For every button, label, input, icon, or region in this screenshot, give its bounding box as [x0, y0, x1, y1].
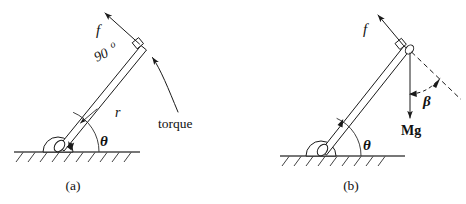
panel-b-diagram: f Mg β θ (b) [233, 0, 466, 204]
right-angle-label-a: 90 [92, 45, 111, 65]
panel-caption-b: (b) [343, 178, 359, 193]
right-angle-label-group-a: 90 o [90, 38, 120, 65]
torque-curved-arrow-a [153, 58, 179, 113]
torque-label-a: torque [158, 116, 193, 131]
beta-arrowhead-right-b [433, 78, 441, 89]
radius-label-a: r [115, 105, 121, 120]
ground-surface-b [280, 156, 405, 166]
degree-symbol-a: o [108, 38, 117, 50]
ground-hatching-b [282, 157, 385, 167]
weight-label-b: Mg [401, 123, 421, 138]
theta-label-b: θ [363, 137, 371, 153]
beta-label-b: β [422, 93, 431, 109]
force-label-b: f [363, 21, 369, 37]
ground-hatching-a [16, 153, 131, 163]
panel-caption-a: (a) [66, 178, 81, 193]
force-label-a: f [96, 22, 102, 38]
figure-root: f 90 o r θ torque (a) [0, 0, 466, 204]
theta-label-a: θ [100, 133, 108, 149]
ground-surface-a [14, 152, 140, 162]
panel-a-diagram: f 90 o r θ torque (a) [0, 0, 233, 204]
force-arrow-b [378, 15, 404, 46]
